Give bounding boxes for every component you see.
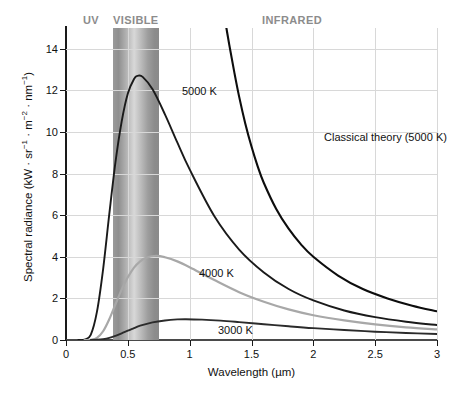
blackbody-radiation-figure: UV VISIBLE INFRARED 02468101214 00.511.5… — [0, 0, 458, 393]
x-tick — [313, 340, 314, 346]
y-tick-label: 14 — [46, 43, 58, 55]
y-axis-title-sup3: −1 — [20, 76, 29, 85]
y-axis-title-mid1: · m — [22, 120, 34, 140]
y-tick-label: 12 — [46, 84, 58, 96]
y-tick-label: 6 — [52, 209, 58, 221]
x-tick — [190, 340, 191, 346]
y-axis-title-mid2: · nm — [22, 85, 34, 111]
y-axis-title: Spectral radiance (kW · sr−1 · m−2 · nm−… — [20, 32, 34, 322]
region-label-visible: VISIBLE — [113, 14, 159, 26]
region-label-uv: UV — [83, 14, 99, 26]
x-tick — [375, 340, 376, 346]
y-axis-title-main: Spectral radiance (kW · sr — [22, 149, 34, 282]
curve-label-classical-theory: Classical theory (5000 K) — [324, 131, 447, 143]
y-tick-label: 4 — [52, 251, 58, 263]
curve-label-5000k: 5000 K — [182, 85, 217, 97]
x-tick-label: 2 — [310, 348, 316, 360]
y-tick-label: 8 — [52, 168, 58, 180]
x-tick — [437, 340, 438, 346]
x-tick — [66, 340, 67, 346]
curve-3000-k — [91, 319, 437, 340]
x-axis-title: Wavelength (µm) — [66, 366, 437, 378]
gridline-vertical — [437, 28, 438, 340]
y-tick-label: 10 — [46, 126, 58, 138]
plot-area: 02468101214 00.511.522.53 5000 K 4000 K … — [66, 28, 437, 340]
y-axis-title-sup2: −2 — [20, 111, 29, 120]
y-tick-label: 2 — [52, 292, 58, 304]
x-tick-label: 3 — [434, 348, 440, 360]
x-tick-label: 0 — [63, 348, 69, 360]
y-tick-label: 0 — [52, 334, 58, 346]
x-tick — [128, 340, 129, 346]
curve-label-3000k: 3000 K — [218, 324, 253, 336]
x-tick — [252, 340, 253, 346]
x-tick-label: 1 — [187, 348, 193, 360]
curve-classical-theory-5000-k — [224, 28, 437, 311]
region-label-infrared: INFRARED — [262, 14, 322, 26]
x-tick-label: 1.5 — [244, 348, 259, 360]
curve-label-4000k: 4000 K — [199, 267, 234, 279]
curve-group — [66, 28, 437, 340]
x-tick-label: 2.5 — [368, 348, 383, 360]
y-axis-title-sup1: −1 — [20, 140, 29, 149]
y-axis-title-tail: ) — [22, 72, 34, 76]
x-tick-label: 0.5 — [120, 348, 135, 360]
